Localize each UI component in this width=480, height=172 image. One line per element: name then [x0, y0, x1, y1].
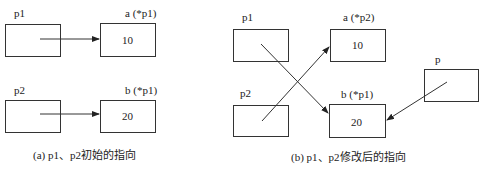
value-a-a: 10 [122, 34, 133, 46]
value-b-a: 20 [122, 110, 133, 122]
box-p [425, 70, 479, 102]
value-b-b: 20 [351, 116, 362, 128]
arrow-p2-to-a [262, 47, 329, 121]
value-a-b: 10 [352, 39, 363, 51]
label-p2-a: p2 [14, 84, 25, 96]
label-p2-b: p2 [240, 87, 251, 99]
pointer-diagram [0, 0, 480, 172]
label-b-b: b (*p1) [341, 88, 373, 100]
label-p: p [435, 53, 441, 65]
label-b-a: b (*p1) [125, 84, 157, 96]
label-p1-b: p1 [242, 11, 253, 23]
arrow-p1-to-b [261, 44, 328, 113]
caption-b: (b) p1、p2修改后的指向 [291, 151, 406, 164]
label-p1-a: p1 [14, 7, 25, 19]
box-p2-b [234, 106, 289, 137]
box-p2-a [6, 101, 61, 133]
label-a-b: a (*p2) [343, 11, 374, 23]
box-p1-b [234, 30, 289, 62]
caption-a: (a) p1、p2初始的指向 [33, 149, 136, 162]
label-a-a: a (*p1) [125, 7, 156, 19]
box-p1-a [6, 25, 61, 57]
